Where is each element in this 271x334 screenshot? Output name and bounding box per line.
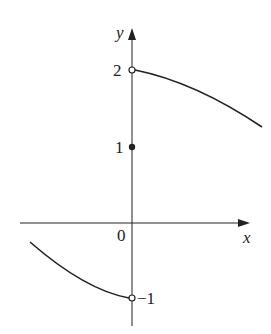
open-point-0-m1	[129, 295, 135, 301]
y-axis-label: y	[114, 23, 124, 42]
curve-left	[30, 242, 129, 298]
tick-label-2: 2	[113, 61, 122, 80]
origin-label: 0	[117, 226, 126, 245]
filled-point-0-1	[129, 144, 135, 150]
tick-label-1: 1	[115, 138, 124, 157]
curve-right	[135, 70, 262, 127]
tick-label-minus-1: −1	[137, 289, 155, 308]
piecewise-graph: y x 0 2 1 −1	[0, 0, 271, 334]
y-axis-arrow-icon	[128, 28, 136, 40]
x-axis-label: x	[242, 228, 251, 247]
x-axis-arrow-icon	[238, 219, 250, 227]
open-point-0-2	[129, 67, 135, 73]
